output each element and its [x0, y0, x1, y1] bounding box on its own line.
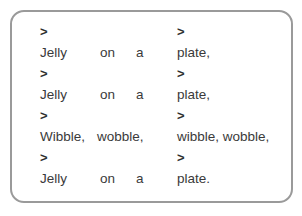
chevron-marker-icon: >	[40, 106, 48, 126]
verse-word: a	[136, 42, 144, 64]
chevron-marker-icon: >	[177, 64, 185, 84]
verse-word: a	[136, 168, 144, 190]
verse-word: a	[136, 84, 144, 106]
verse-line: Jelly on a plate,	[40, 42, 292, 64]
marker-row: > >	[40, 64, 292, 84]
verse-block: > > Jelly on a plate, > > Jelly on a pla…	[40, 22, 292, 190]
verse-word: on	[100, 84, 115, 106]
verse-word: Wibble,	[40, 126, 85, 148]
document-canvas: > > Jelly on a plate, > > Jelly on a pla…	[0, 0, 302, 216]
chevron-marker-icon: >	[177, 106, 185, 126]
chevron-marker-icon: >	[177, 148, 185, 168]
verse-word: plate.	[177, 168, 210, 190]
verse-line: Jelly on a plate,	[40, 84, 292, 106]
verse-word: Jelly	[40, 168, 67, 190]
marker-row: > >	[40, 148, 292, 168]
marker-row: > >	[40, 22, 292, 42]
marker-row: > >	[40, 106, 292, 126]
verse-line: Jelly on a plate.	[40, 168, 292, 190]
rhyme-panel: > > Jelly on a plate, > > Jelly on a pla…	[10, 10, 293, 203]
chevron-marker-icon: >	[40, 22, 48, 42]
verse-word: Jelly	[40, 84, 67, 106]
verse-word: Jelly	[40, 42, 67, 64]
verse-word: plate,	[177, 42, 210, 64]
verse-line: Wibble, wobble, wibble, wobble,	[40, 126, 292, 148]
verse-word: on	[100, 42, 115, 64]
verse-word: wobble,	[97, 126, 144, 148]
verse-word: wibble, wobble,	[177, 126, 269, 148]
verse-word: on	[100, 168, 115, 190]
chevron-marker-icon: >	[177, 22, 185, 42]
chevron-marker-icon: >	[40, 64, 48, 84]
chevron-marker-icon: >	[40, 148, 48, 168]
verse-word: plate,	[177, 84, 210, 106]
